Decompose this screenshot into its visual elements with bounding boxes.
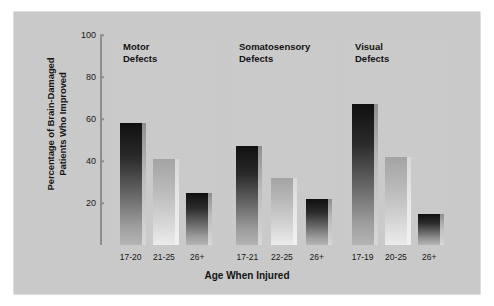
bar-slot: 26+	[302, 35, 332, 245]
bar-slot: 21-25	[149, 35, 179, 245]
chart-figure: Percentage of Brain-Damaged Patients Who…	[14, 12, 480, 294]
bars-row: 17-2122-2526+	[230, 35, 334, 245]
bar-group: Somatosensory Defects17-2122-2526+	[230, 35, 334, 245]
bar[interactable]	[385, 157, 407, 245]
bar-slot: 17-19	[348, 35, 378, 245]
y-tick-mark	[100, 160, 104, 162]
x-tick-label: 17-19	[352, 252, 374, 262]
y-tick-mark	[100, 202, 104, 204]
bar-slot: 17-20	[116, 35, 146, 245]
y-axis-line	[100, 35, 102, 245]
bar-slot: 26+	[414, 35, 444, 245]
x-tick-label: 26+	[422, 252, 436, 262]
bar-edge-highlight	[208, 193, 212, 246]
y-tick-label: 100	[66, 30, 96, 40]
bar-edge-highlight	[328, 199, 332, 245]
bar[interactable]	[306, 199, 328, 245]
y-tick-label: 60	[66, 114, 96, 124]
x-axis-title: Age When Injured	[14, 270, 480, 281]
bar[interactable]	[186, 193, 208, 246]
plot-area: 20406080100 Motor Defects17-2021-2526+So…	[100, 35, 452, 245]
y-axis-title: Percentage of Brain-Damaged Patients Who…	[41, 24, 73, 224]
x-tick-label: 26+	[309, 252, 323, 262]
y-tick-label: 20	[66, 198, 96, 208]
bar[interactable]	[271, 178, 293, 245]
y-tick-mark	[100, 118, 104, 120]
bar-slot: 26+	[182, 35, 212, 245]
y-tick-mark	[100, 34, 104, 36]
bar-edge-highlight	[175, 159, 179, 245]
bar-slot: 22-25	[267, 35, 297, 245]
y-tick-mark	[100, 76, 104, 78]
bars-row: 17-1920-2526+	[346, 35, 446, 245]
bars-row: 17-2021-2526+	[114, 35, 214, 245]
bar-edge-highlight	[293, 178, 297, 245]
y-tick-label: 40	[66, 156, 96, 166]
x-tick-label: 26+	[190, 252, 204, 262]
bar-edge-highlight	[440, 214, 444, 246]
bar[interactable]	[120, 123, 142, 245]
bar[interactable]	[352, 104, 374, 245]
bar-group: Visual Defects17-1920-2526+	[346, 35, 446, 245]
y-tick-label: 80	[66, 72, 96, 82]
bar-group: Motor Defects17-2021-2526+	[114, 35, 214, 245]
bar-slot: 17-21	[232, 35, 262, 245]
bar[interactable]	[236, 146, 258, 245]
bar-edge-highlight	[142, 123, 146, 245]
y-axis-title-line-1: Percentage of Brain-Damaged	[45, 58, 58, 191]
x-tick-label: 22-25	[271, 252, 293, 262]
bar[interactable]	[418, 214, 440, 246]
bar-edge-highlight	[258, 146, 262, 245]
x-tick-label: 20-25	[385, 252, 407, 262]
bar-edge-highlight	[374, 104, 378, 245]
bar[interactable]	[153, 159, 175, 245]
x-tick-label: 21-25	[153, 252, 175, 262]
x-tick-label: 17-20	[120, 252, 142, 262]
x-tick-label: 17-21	[236, 252, 258, 262]
bar-slot: 20-25	[381, 35, 411, 245]
bar-edge-highlight	[407, 157, 411, 245]
